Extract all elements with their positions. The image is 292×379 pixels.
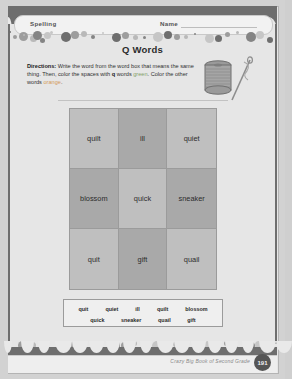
word-box-item: quiet <box>105 306 118 312</box>
confetti-dot <box>122 32 129 39</box>
grid-cell[interactable]: gift <box>119 229 168 289</box>
directions-orange-word: orange <box>43 79 60 85</box>
grid-cell[interactable]: ill <box>119 109 168 169</box>
confetti-dot <box>81 31 87 37</box>
confetti-dots-band <box>9 31 276 45</box>
band-tooth <box>38 341 50 353</box>
confetti-dot <box>102 32 104 34</box>
spool-of-thread-icon <box>198 52 262 104</box>
right-edge-bar <box>275 24 277 344</box>
band-tooth <box>72 341 88 353</box>
band-tooth <box>140 341 152 353</box>
confetti-dot <box>246 32 256 42</box>
confetti-dot <box>13 35 17 39</box>
band-tooth <box>89 341 104 353</box>
section-divider <box>58 100 228 101</box>
confetti-dot <box>143 36 146 39</box>
word-box-item: quilt <box>157 306 168 312</box>
band-tooth <box>157 341 174 353</box>
confetti-dot <box>174 34 180 40</box>
confetti-dot <box>133 35 138 40</box>
word-box: quitquietillquiltblossom quicksneakerqua… <box>63 299 223 327</box>
confetti-dot <box>215 35 222 42</box>
word-box-item: quail <box>158 317 171 323</box>
name-label: Name <box>160 20 178 27</box>
confetti-dot <box>256 31 264 39</box>
band-tooth <box>191 341 206 353</box>
name-write-in-line[interactable] <box>181 27 257 28</box>
grid-cell[interactable]: blossom <box>70 169 119 229</box>
confetti-dot <box>91 35 95 39</box>
confetti-dot <box>9 31 11 33</box>
confetti-dot <box>153 32 163 42</box>
directions-text: Directions: Write the word from the word… <box>27 62 195 87</box>
grid-cell[interactable]: quail <box>167 229 216 289</box>
grid-cell[interactable]: sneaker <box>167 169 216 229</box>
word-box-item: quick <box>90 317 104 323</box>
band-tooth <box>4 341 12 353</box>
band-tooth <box>259 341 276 353</box>
subject-label: Spelling <box>30 20 56 27</box>
confetti-dot <box>112 33 121 42</box>
band-tooth <box>55 341 72 353</box>
band-tooth <box>123 341 136 353</box>
word-box-row-2: quicksneakerquailgift <box>64 314 222 325</box>
confetti-dot <box>40 38 45 43</box>
grid-cell[interactable]: quick <box>119 169 168 229</box>
confetti-dot <box>267 37 273 43</box>
confetti-dot <box>236 31 239 34</box>
word-box-item: blossom <box>185 306 207 312</box>
band-tooth <box>208 341 222 353</box>
confetti-dot <box>194 33 196 35</box>
band-tooth <box>242 341 254 353</box>
band-tooth <box>276 17 277 24</box>
confetti-dot <box>61 32 71 42</box>
confetti-dot <box>44 32 51 39</box>
word-box-item: ill <box>135 306 140 312</box>
book-title-footer: Crazy Big Book of Second Grade <box>150 358 250 364</box>
word-box-item: gift <box>187 317 195 323</box>
page-number-badge: 191 <box>254 354 271 371</box>
band-tooth <box>8 17 12 24</box>
word-box-row-1: quitquietillquiltblossom <box>64 303 222 314</box>
word-box-item: sneaker <box>121 317 141 323</box>
confetti-dot <box>164 31 172 39</box>
grid-cell[interactable]: quiet <box>167 109 216 169</box>
confetti-dot <box>205 34 214 43</box>
worksheet-page: Spelling Name Q Words Directions: Write … <box>0 0 285 379</box>
directions-part4: . <box>61 79 63 85</box>
bottom-decorative-band <box>8 347 277 355</box>
confetti-dot <box>225 32 230 37</box>
directions-lead: Directions: <box>27 63 56 69</box>
word-coloring-grid: quiltillquietblossomquicksneakerquitgift… <box>69 108 217 290</box>
directions-green-word: green <box>133 71 147 77</box>
left-edge-bar <box>8 24 10 344</box>
directions-part2: words <box>115 71 133 77</box>
confetti-dot <box>184 35 188 39</box>
band-tooth <box>174 341 190 353</box>
confetti-dot <box>71 31 79 39</box>
band-tooth <box>225 341 238 353</box>
grid-cell[interactable]: quilt <box>70 109 119 169</box>
band-tooth <box>106 341 120 353</box>
band-tooth <box>21 341 34 353</box>
word-box-item: quit <box>79 306 89 312</box>
grid-cell[interactable]: quit <box>70 229 119 289</box>
